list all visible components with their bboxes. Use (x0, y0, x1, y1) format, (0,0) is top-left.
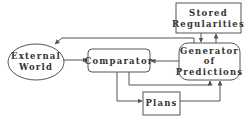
generator-label-line3: Predictions (176, 67, 244, 77)
comparator-label: Comparator (85, 56, 154, 66)
external-world-label-line1: External (11, 51, 61, 61)
plans-label: Plans (145, 98, 177, 108)
stored-regularities-label-line2: Regularities (172, 19, 245, 29)
node-generator-of-predictions: Generator of Predictions (176, 43, 244, 80)
node-external-world: External World (8, 44, 64, 80)
edge-plans-to-generator (180, 81, 220, 101)
edge-generator-to-external-world (55, 38, 194, 44)
stored-regularities-label-line1: Stored (189, 8, 228, 18)
node-stored-regularities: Stored Regularities (172, 3, 245, 33)
generator-label-line2: of (204, 56, 216, 66)
generator-label-line1: Generator (180, 46, 239, 56)
node-plans: Plans (143, 92, 180, 115)
diagram-canvas: Stored Regularities Generator of Predict… (0, 0, 251, 120)
external-world-label-line2: World (18, 62, 53, 72)
node-comparator: Comparator (85, 49, 154, 72)
